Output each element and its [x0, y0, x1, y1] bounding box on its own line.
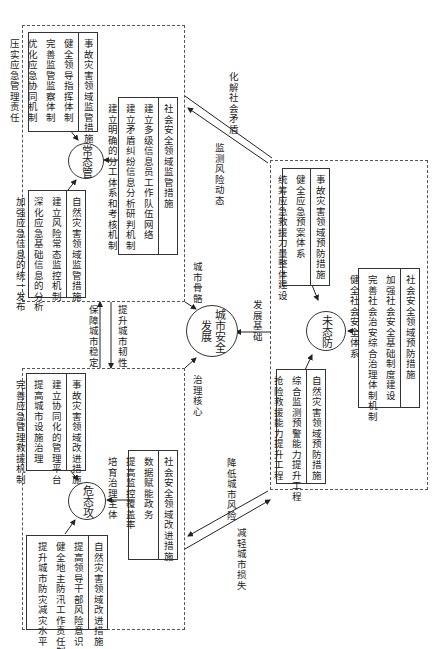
crisis-state-node: 危态攻 — [68, 482, 106, 520]
edge-label-monitor-risk-dynamics: 监测风险动态 — [212, 143, 226, 206]
node-label: 危态攻 — [81, 485, 93, 518]
edge-label-enhance-city-resilience: 提升城市韧性 — [115, 305, 129, 368]
box-item: 统筹应急救援力量整体建设 — [275, 175, 289, 279]
box-item: 健全地主防汛工作责任制 — [53, 542, 67, 623]
edge-label-reduce-city-risk: 降低城市风险 — [224, 458, 238, 521]
box-title: 社会安全领域监管措施 — [158, 98, 177, 254]
prevention-accident-measures-box: 事故灾害领域预防措施 健全应急预案体系 统筹应急救援力量整体建设 — [282, 168, 330, 286]
edge-label-city-skeleton: 城市骨骼 — [190, 262, 204, 304]
box-item: 完善社会治安综合治理体制机制 — [365, 275, 379, 401]
box-item: 建立明确的分工体系和考核机制 — [105, 104, 119, 248]
box-item: 加强社会安全基础制度建设 — [383, 275, 397, 401]
box-item: 健全社会安全体系 — [347, 275, 361, 401]
box-title: 自然灾害领域监管措施 — [66, 191, 85, 297]
city-safety-development-node: 城市安全 发展 — [186, 305, 238, 357]
normal-accident-measures-box: 事故灾害领域监管措施 健全领导指挥体制 完善监管监察体制 优化应急协同机制 压实… — [28, 32, 98, 132]
crisis-natural-measures-box: 自然灾害领域改进措施 提高领导干部风险意识 健全地主防汛工作责任制 提升城市防灾… — [26, 535, 108, 630]
edge-label-resolve-social-conflicts: 化解社会矛盾 — [226, 72, 240, 135]
edge-label-governance-core: 治理核心 — [190, 375, 204, 417]
center-label-line1: 城市安全 — [213, 309, 225, 353]
node-label: 常态管 — [80, 145, 92, 178]
node-label: 未态防 — [320, 315, 332, 348]
box-item: 健全领导指挥体制 — [61, 39, 75, 125]
box-title: 事故灾害领域改进措施 — [66, 374, 85, 470]
box-item: 提高领导干部风险意识 — [71, 542, 85, 623]
edge-label-ensure-city-stability: 保障城市稳定 — [86, 305, 100, 368]
box-item: 完善应急管理救援机制 — [13, 380, 27, 464]
edge-label-mitigate-city-loss: 减轻城市损失 — [234, 528, 248, 591]
box-item: 提高城市设施治理 — [31, 380, 45, 464]
crisis-social-measures-box: 社会安全领域改进措施 数据赋能政务 提高监控覆盖率 培育治理主体 — [128, 450, 178, 560]
box-item: 健全应急预案体系 — [293, 175, 307, 279]
box-title: 事故灾害领域预防措施 — [310, 169, 329, 285]
box-item: 压实应急管理责任 — [7, 39, 21, 125]
box-item: 加强应急信息的统一发布 — [13, 197, 27, 291]
crisis-accident-measures-box: 事故灾害领域改进措施 建立协同化的管理平台 提高城市设施治理 完善应急管理救援机… — [26, 373, 86, 471]
box-item: 综合监测预警能力提升工程 — [289, 376, 303, 477]
box-item: 完善监管监察体制 — [43, 39, 57, 125]
normal-natural-measures-box: 自然灾害领域监管措施 建立风险常态监控机制 深化应急基础信息的分析 加强应急信息… — [28, 190, 86, 298]
box-item: 建立协同化的管理平台 — [49, 380, 63, 464]
box-title: 社会安全领域预防措施 — [400, 269, 419, 407]
edge-label-development-foundation: 发展基础 — [250, 300, 264, 342]
box-title: 事故灾害领域监管措施 — [78, 33, 97, 131]
prevention-social-measures-box: 社会安全领域预防措施 加强社会安全基础制度建设 完善社会治安综合治理体制机制 健… — [358, 268, 420, 408]
box-title: 自然灾害领域改进措施 — [88, 536, 107, 629]
box-title: 社会安全领域改进措施 — [158, 451, 177, 559]
prevention-state-node: 未态防 — [306, 311, 346, 351]
prevention-natural-measures-box: 自然灾害领域预防措施 综合监测预警能力提升工程 抢险救援能力提升工程 — [276, 369, 326, 484]
normal-social-measures-box: 社会安全领域监管措施 建立多级信息员工作队伍网络 建立矛盾纠纷信息分析研判机制 … — [118, 97, 178, 255]
center-label-line2: 发展 — [199, 320, 211, 342]
box-item: 数据赋能政务 — [141, 457, 155, 553]
box-title: 自然灾害领域预防措施 — [306, 370, 325, 483]
box-item: 优化应急协同机制 — [25, 39, 39, 125]
box-item: 深化应急基础信息的分析 — [31, 197, 45, 291]
normal-state-node: 常态管 — [68, 143, 104, 179]
box-item: 提高监控覆盖率 — [123, 457, 137, 553]
box-item: 提升城市防灾减灾水平 — [35, 542, 49, 623]
box-item: 建立多级信息员工作队伍网络 — [141, 104, 155, 248]
box-item: 建立矛盾纠纷信息分析研判机制 — [123, 104, 137, 248]
box-item: 建立风险常态监控机制 — [49, 197, 63, 291]
box-item: 抢险救援能力提升工程 — [271, 376, 285, 477]
